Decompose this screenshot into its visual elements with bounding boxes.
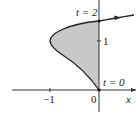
x-axis-arrow bbox=[131, 88, 136, 92]
point-t2 bbox=[97, 19, 100, 22]
origin-label: 0 bbox=[91, 93, 97, 105]
diagram: t = 2 t = 0 1 −1 0 x bbox=[0, 0, 140, 116]
y-tick-label: 1 bbox=[103, 35, 109, 47]
curve-direction-arrow bbox=[114, 16, 121, 21]
x-axis-label: x bbox=[125, 93, 131, 105]
label-t0: t = 0 bbox=[103, 76, 125, 88]
point-t0 bbox=[97, 88, 100, 91]
x-tick-label-neg1: −1 bbox=[43, 93, 55, 105]
label-t2: t = 2 bbox=[76, 6, 98, 18]
